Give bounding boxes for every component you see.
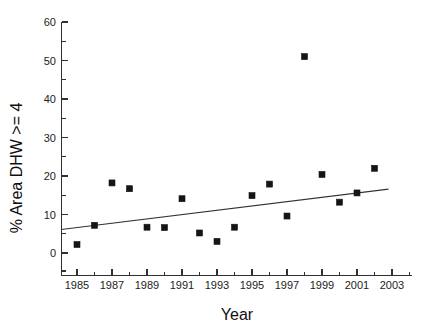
data-point bbox=[74, 242, 80, 248]
chart-figure: 0 10 20 30 40 50 60 bbox=[0, 0, 434, 332]
y-axis-title: % Area DHW >= 4 bbox=[8, 103, 25, 234]
y-tick-label-50: 50 bbox=[44, 55, 56, 67]
data-point bbox=[92, 222, 98, 228]
y-tick-label-20: 20 bbox=[44, 170, 56, 182]
data-point bbox=[197, 230, 203, 236]
x-tick-label-1991: 1991 bbox=[170, 279, 194, 291]
x-tick-label-1985: 1985 bbox=[65, 279, 89, 291]
axis-lines bbox=[62, 22, 413, 276]
x-tick-label-1989: 1989 bbox=[135, 279, 159, 291]
x-axis-ticks: 1985 1987 1989 1991 1993 1995 1997 1999 … bbox=[65, 269, 410, 291]
y-tick-label-40: 40 bbox=[44, 93, 56, 105]
data-point bbox=[337, 199, 343, 205]
data-point bbox=[127, 186, 133, 192]
data-point bbox=[109, 180, 115, 186]
x-tick-label-1995: 1995 bbox=[240, 279, 264, 291]
x-tick-label-1997: 1997 bbox=[275, 279, 299, 291]
data-point bbox=[372, 165, 378, 171]
data-point bbox=[284, 213, 290, 219]
y-axis-ticks: 0 10 20 30 40 50 60 bbox=[44, 16, 68, 271]
x-tick-label-2001: 2001 bbox=[345, 279, 369, 291]
data-point bbox=[249, 193, 255, 199]
data-markers bbox=[74, 54, 378, 248]
data-point bbox=[354, 190, 360, 196]
y-tick-label-60: 60 bbox=[44, 16, 56, 28]
data-point bbox=[267, 181, 273, 187]
data-point bbox=[214, 238, 220, 244]
scatter-plot: 0 10 20 30 40 50 60 bbox=[0, 0, 434, 332]
data-point bbox=[162, 225, 168, 231]
trend-line bbox=[61, 189, 388, 229]
data-point bbox=[232, 224, 238, 230]
x-tick-label-1999: 1999 bbox=[310, 279, 334, 291]
x-tick-label-2003: 2003 bbox=[380, 279, 404, 291]
y-tick-label-10: 10 bbox=[44, 209, 56, 221]
x-tick-label-1993: 1993 bbox=[205, 279, 229, 291]
x-axis-title: Year bbox=[221, 306, 254, 323]
data-point bbox=[144, 224, 150, 230]
y-tick-label-0: 0 bbox=[50, 247, 56, 259]
data-point bbox=[179, 196, 185, 202]
data-point bbox=[302, 54, 308, 60]
x-tick-label-1987: 1987 bbox=[100, 279, 124, 291]
trend-line-group bbox=[61, 189, 388, 229]
data-point bbox=[319, 171, 325, 177]
y-tick-label-30: 30 bbox=[44, 132, 56, 144]
